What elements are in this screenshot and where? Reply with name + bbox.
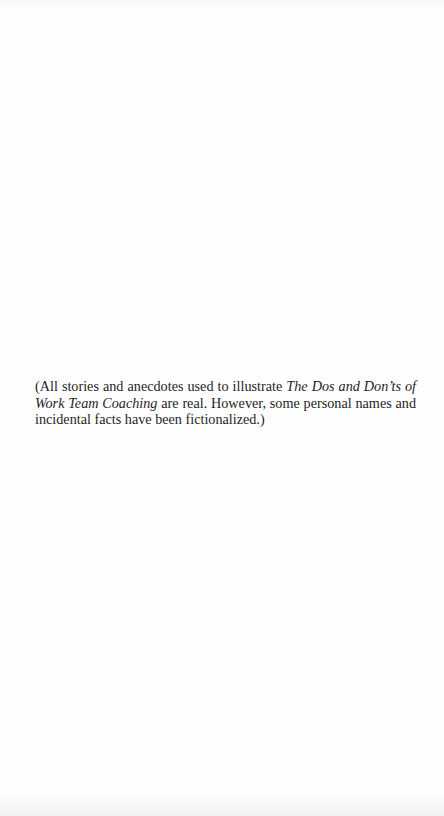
document-page: (All stories and anecdotes used to illus… (0, 0, 444, 816)
scan-edge-bottom (0, 792, 444, 816)
disclaimer-paragraph: (All stories and anecdotes used to illus… (35, 378, 416, 428)
disclaimer-text-start: (All stories and anecdotes used to illus… (35, 378, 286, 394)
scan-edge-top (0, 0, 444, 10)
